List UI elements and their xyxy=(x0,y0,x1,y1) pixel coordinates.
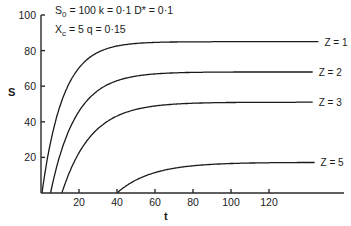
series-line-z5 xyxy=(117,163,315,194)
series-label: Z = 1 xyxy=(324,37,348,48)
y-tick-label: 20 xyxy=(24,151,36,163)
series-line-z2 xyxy=(51,72,313,193)
annotation-line-1: S0 = 100 k = 0·1 D* = 0·1 xyxy=(55,4,173,19)
parameter-annotation: S0 = 100 k = 0·1 D* = 0·1 Xc = 5 q = 0·1… xyxy=(55,4,173,38)
x-tick-label: 40 xyxy=(111,196,123,208)
series-label: Z = 2 xyxy=(319,67,343,78)
series-curves xyxy=(42,42,318,193)
y-tick-label: 40 xyxy=(24,116,36,128)
x-tick-label: 20 xyxy=(73,196,85,208)
x-tick-label: 60 xyxy=(149,196,161,208)
series-label: Z = 3 xyxy=(319,97,343,108)
line-chart: S0 = 100 k = 0·1 D* = 0·1 Xc = 5 q = 0·1… xyxy=(0,0,351,226)
series-label: Z = 5 xyxy=(321,157,345,168)
y-tick-label: 100 xyxy=(18,9,36,21)
series-line-z3 xyxy=(62,102,313,193)
x-axis-title: t xyxy=(164,210,168,222)
y-tick-label: 80 xyxy=(24,45,36,57)
y-axis-title: S xyxy=(8,86,15,98)
annotation-line-2: Xc = 5 q = 0·15 xyxy=(55,23,126,38)
x-tick-label: 80 xyxy=(187,196,199,208)
x-ticks: 20406080100120 xyxy=(73,189,278,208)
x-tick-label: 120 xyxy=(260,196,278,208)
y-tick-label: 60 xyxy=(24,80,36,92)
x-tick-label: 100 xyxy=(222,196,240,208)
series-labels: Z = 1Z = 2Z = 3Z = 5 xyxy=(319,37,348,169)
series-line-z1 xyxy=(42,42,318,193)
